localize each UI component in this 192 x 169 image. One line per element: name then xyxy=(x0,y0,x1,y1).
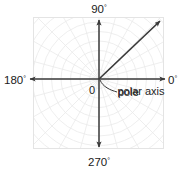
degree-symbol-90: ° xyxy=(104,4,107,11)
axis-label-90-value: 90 xyxy=(91,3,104,15)
axis-label-270-value: 270 xyxy=(88,156,107,168)
polar-diagram-svg: 90° 180° 0° 270° 0 pole polar axis xyxy=(0,0,192,169)
degree-symbol-180: ° xyxy=(23,75,26,82)
polar-axis-label: polar axis xyxy=(117,85,165,97)
axis-label-270: 270° xyxy=(88,156,110,168)
polar-diagram-figure: 90° 180° 0° 270° 0 pole polar axis xyxy=(0,0,192,169)
origin-label: 0 xyxy=(89,84,95,96)
axis-label-180: 180° xyxy=(4,74,26,86)
axis-label-180-value: 180 xyxy=(4,74,23,86)
degree-symbol-0: ° xyxy=(174,75,177,82)
degree-symbol-270: ° xyxy=(107,157,110,164)
